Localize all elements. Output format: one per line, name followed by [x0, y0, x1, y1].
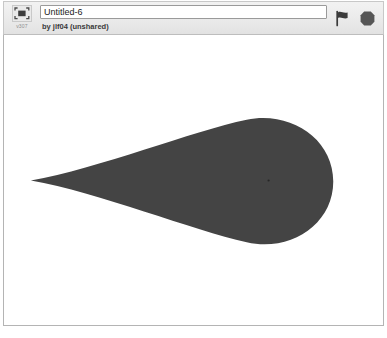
- stop-button[interactable]: [358, 9, 376, 27]
- green-flag-button[interactable]: [333, 9, 351, 27]
- project-version-label: v307: [16, 23, 28, 29]
- project-byline: by jlf04 (unshared): [40, 19, 333, 32]
- stage-area[interactable]: [3, 35, 384, 326]
- project-badge: v307: [4, 2, 40, 34]
- project-thumbnail-icon: [12, 5, 32, 22]
- sprite-rotation-center: [268, 179, 270, 181]
- scratch-project-player: v307 Untitled-6 by jlf04 (unshared): [0, 0, 387, 338]
- player-controls: [333, 2, 383, 34]
- octagon-icon: [359, 10, 376, 27]
- player-header: v307 Untitled-6 by jlf04 (unshared): [3, 1, 384, 35]
- project-info: Untitled-6 by jlf04 (unshared): [40, 2, 333, 34]
- stage-canvas[interactable]: [4, 35, 383, 325]
- flag-icon: [334, 10, 351, 27]
- project-title-input[interactable]: Untitled-6: [40, 5, 327, 19]
